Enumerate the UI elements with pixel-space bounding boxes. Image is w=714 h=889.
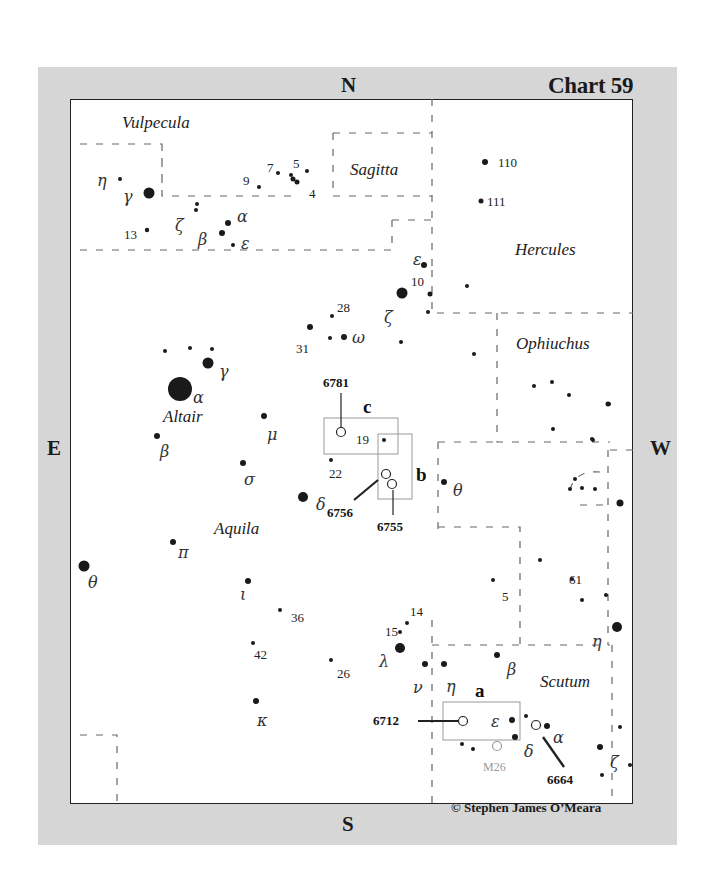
flamsteed-number-label: 5 bbox=[502, 589, 509, 604]
object-label: 6712 bbox=[373, 713, 399, 728]
flamsteed-number-label: 111 bbox=[487, 194, 506, 209]
greek-letter-label: ζ bbox=[175, 216, 185, 235]
field-letter: a bbox=[475, 680, 485, 701]
star-icon bbox=[618, 725, 622, 729]
flamsteed-number-label: 10 bbox=[411, 274, 424, 289]
flamsteed-number-label: 36 bbox=[291, 610, 305, 625]
star-icon bbox=[441, 661, 447, 667]
flamsteed-number-label: 31 bbox=[296, 341, 309, 356]
flamsteed-number-label: 9 bbox=[243, 173, 250, 188]
star-icon bbox=[145, 228, 149, 232]
star-icon bbox=[219, 230, 225, 236]
flamsteed-number-label: 42 bbox=[254, 647, 267, 662]
greek-letter-label: δ bbox=[316, 495, 326, 514]
greek-letter-label: δ bbox=[524, 742, 534, 761]
star-icon bbox=[421, 262, 427, 268]
star-icon bbox=[278, 608, 282, 612]
greek-letter-label: ω bbox=[352, 328, 365, 347]
star-icon bbox=[441, 479, 447, 485]
greek-letter-label: ε bbox=[241, 234, 250, 253]
star-icon bbox=[607, 402, 611, 406]
greek-letter-label: α bbox=[553, 728, 564, 747]
greek-letter-label: γ bbox=[219, 362, 229, 381]
field-letter: b bbox=[416, 464, 427, 485]
constellation-label: Ophiuchus bbox=[516, 334, 590, 353]
object-label: 6781 bbox=[323, 375, 349, 390]
star-icon bbox=[568, 487, 572, 491]
star-icon bbox=[257, 185, 261, 189]
greek-letter-label: ι bbox=[240, 585, 246, 604]
open-cluster-icon bbox=[532, 721, 541, 730]
object-label: M26 bbox=[483, 760, 506, 774]
flamsteed-number-label: 13 bbox=[124, 227, 137, 242]
star-icon bbox=[604, 593, 608, 597]
greek-letter-label: κ bbox=[256, 711, 268, 730]
star-icon bbox=[532, 384, 536, 388]
star-icon bbox=[341, 334, 347, 340]
star-icon bbox=[593, 487, 597, 491]
star-icon bbox=[295, 180, 300, 185]
star-icon bbox=[460, 742, 464, 746]
star-icon bbox=[305, 169, 309, 173]
star-icon bbox=[617, 500, 624, 507]
greek-letter-label: γ bbox=[123, 187, 133, 206]
star-icon bbox=[472, 352, 476, 356]
flamsteed-number-label: 110 bbox=[498, 155, 517, 170]
flamsteed-number-label: 7 bbox=[267, 160, 274, 175]
star-icon bbox=[428, 292, 433, 297]
greek-letter-label: λ bbox=[378, 652, 389, 671]
star-icon bbox=[330, 314, 334, 318]
star-icon bbox=[395, 643, 405, 653]
star-icon bbox=[289, 173, 293, 177]
greek-letter-label: ε bbox=[413, 250, 422, 269]
leader-line bbox=[354, 480, 378, 500]
star-name-label: Altair bbox=[162, 407, 203, 426]
greek-letter-label: ζ bbox=[610, 753, 620, 772]
greek-letter-label: μ bbox=[267, 425, 277, 444]
flamsteed-number-label: 4 bbox=[309, 186, 316, 201]
flamsteed-number-label: 19 bbox=[356, 432, 369, 447]
greek-letter-label: β bbox=[506, 660, 516, 679]
constellation-label: Sagitta bbox=[350, 160, 398, 179]
star-icon bbox=[154, 433, 160, 439]
greek-letter-label: ζ bbox=[384, 308, 394, 327]
star-icon bbox=[580, 598, 584, 602]
star-icon bbox=[591, 438, 595, 442]
star-icon bbox=[426, 310, 430, 314]
star-icon bbox=[422, 661, 428, 667]
star-icon bbox=[405, 621, 409, 625]
star-icon bbox=[194, 208, 198, 212]
star-icon bbox=[144, 188, 155, 199]
field-letter: c bbox=[363, 396, 371, 417]
star-icon bbox=[512, 734, 518, 740]
star-icon bbox=[600, 773, 604, 777]
star-icon bbox=[567, 393, 571, 397]
star-icon bbox=[597, 744, 603, 750]
star-icon bbox=[203, 358, 214, 369]
star-icon bbox=[163, 349, 167, 353]
star-icon bbox=[397, 288, 408, 299]
star-icon bbox=[538, 558, 542, 562]
star-icon bbox=[298, 492, 308, 502]
star-icon bbox=[399, 340, 403, 344]
flamsteed-number-label: 22 bbox=[329, 466, 342, 481]
flamsteed-number-label: 61 bbox=[569, 572, 582, 587]
star-icon bbox=[118, 177, 122, 181]
star-icon bbox=[261, 413, 267, 419]
greek-letter-label: η bbox=[592, 632, 602, 651]
greek-letter-label: θ bbox=[88, 573, 98, 592]
star-icon bbox=[168, 377, 192, 401]
star-icon bbox=[245, 578, 251, 584]
greek-letter-label: ν bbox=[413, 678, 423, 697]
star-icon bbox=[465, 284, 469, 288]
greek-letter-label: π bbox=[177, 543, 189, 562]
open-cluster-icon bbox=[459, 717, 468, 726]
star-icon bbox=[482, 159, 488, 165]
star-icon bbox=[471, 747, 475, 751]
constellation-label: Aquila bbox=[213, 519, 259, 538]
star-icon bbox=[170, 539, 176, 545]
star-icon bbox=[524, 714, 528, 718]
star-icon bbox=[551, 427, 555, 431]
field-box-b bbox=[378, 434, 412, 499]
flamsteed-number-label: 14 bbox=[410, 604, 424, 619]
